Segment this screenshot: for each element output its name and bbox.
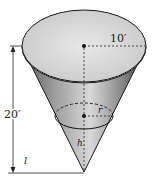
top-radius-label: 10′ [110,32,127,45]
top-center-dot [82,44,86,48]
water-center-dot [82,114,86,118]
arrow-up-icon [11,46,16,52]
water-radius-label: r [98,105,103,115]
height-label: 20′ [4,108,21,121]
arrow-down-icon [11,167,16,173]
water-height-label: h [77,138,83,148]
level-label: l [24,155,27,166]
cone-diagram: 10′ 20′ r h l [0,0,157,185]
